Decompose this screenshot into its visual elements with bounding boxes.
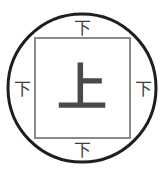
- right-character: 下: [132, 78, 154, 100]
- left-character: 下: [11, 78, 33, 100]
- top-character: 下: [71, 17, 93, 39]
- diagram-canvas: 上 下 下 下 下: [0, 0, 164, 177]
- bottom-character: 下: [71, 139, 93, 161]
- center-character: 上: [56, 60, 108, 116]
